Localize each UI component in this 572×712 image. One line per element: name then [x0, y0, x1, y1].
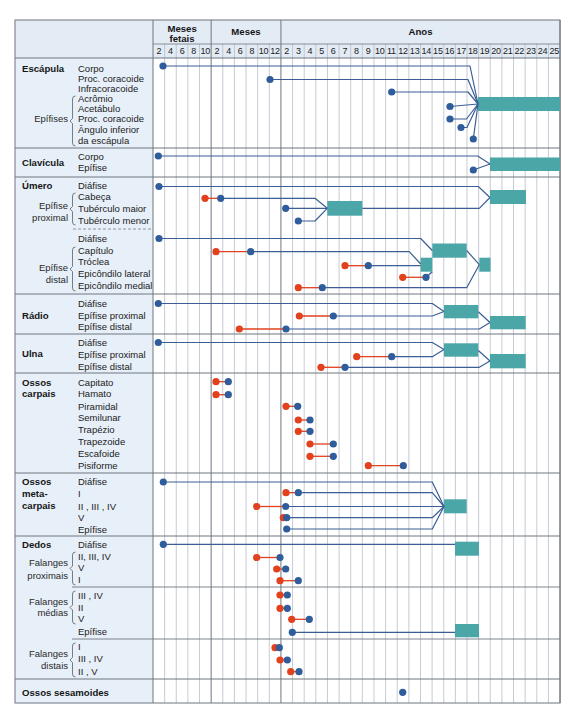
axis-tick-label: 2: [281, 47, 293, 56]
end-marker-dot: [159, 62, 166, 69]
end-marker-dot: [289, 629, 296, 636]
start-marker-dot: [317, 364, 324, 371]
row-label: Epífise: [78, 163, 107, 173]
axis-tick-label: 18: [467, 47, 479, 56]
end-marker-dot: [155, 235, 162, 242]
axis-tick-label: 2: [211, 47, 223, 56]
axis-tick-label: 6: [234, 47, 246, 56]
end-marker-dot: [470, 166, 477, 173]
axis-tick-label: 21: [502, 47, 514, 56]
end-marker-dot: [155, 183, 162, 190]
start-marker-dot: [276, 577, 283, 584]
end-marker-dot: [319, 284, 326, 291]
section-title: Dedos: [22, 540, 51, 550]
end-marker-dot: [282, 205, 289, 212]
section-title: Clavícula: [22, 158, 64, 168]
start-marker-dot: [212, 248, 219, 255]
group-label: Epífises: [34, 114, 68, 124]
row-label: Capitato: [78, 378, 113, 388]
row-label: Diáfise: [78, 338, 107, 348]
end-marker-dot: [284, 605, 291, 612]
section-title: Escápula: [22, 64, 64, 74]
axis-tick-label: 3: [293, 47, 305, 56]
end-marker-dot: [399, 689, 406, 696]
end-marker-dot: [306, 416, 313, 423]
row-label: da escápula: [78, 136, 129, 146]
row-label: Tróclea: [78, 257, 109, 267]
section-title: meta-: [22, 489, 48, 499]
connector-line: [478, 351, 490, 362]
row-label: Epífise proximal: [78, 311, 146, 321]
row-label: Cabeça: [78, 192, 111, 202]
fusion-bar: [455, 542, 479, 556]
fusion-bar: [444, 343, 478, 356]
start-marker-dot: [282, 403, 289, 410]
end-marker-dot: [446, 115, 453, 122]
start-marker-dot: [287, 668, 294, 675]
axis-tick-label: 24: [537, 47, 549, 56]
row-label: Trapézio: [78, 425, 115, 435]
row-label: V: [78, 614, 84, 624]
fusion-bar: [490, 316, 526, 329]
fusion-bar: [432, 244, 466, 258]
end-marker-dot: [294, 403, 301, 410]
axis-tick-label: 20: [490, 47, 502, 56]
row-label: Ângulo inferior: [78, 125, 139, 135]
axis-tick-label: 15: [432, 47, 444, 56]
group-label: médias: [37, 608, 68, 618]
progress-line: [392, 92, 478, 104]
end-marker-dot: [155, 300, 162, 307]
row-label: III , IV: [78, 654, 103, 664]
fusion-bar: [455, 624, 479, 637]
group-label: Falanges: [29, 597, 68, 607]
end-marker-dot: [225, 378, 232, 385]
end-marker-dot: [217, 195, 224, 202]
start-marker-dot: [288, 616, 295, 623]
progress-line: [450, 104, 478, 107]
row-label: Epífise: [78, 627, 107, 637]
end-marker-dot: [341, 364, 348, 371]
row-label: Epífise distal: [78, 322, 132, 332]
start-marker-dot: [295, 428, 302, 435]
end-marker-dot: [160, 541, 167, 548]
section-title: Ulna: [22, 349, 43, 359]
end-marker-dot: [284, 591, 291, 598]
row-label: Epicôndilo medial: [78, 281, 152, 291]
row-label: Diáfise: [78, 299, 107, 309]
start-marker-dot: [273, 565, 280, 572]
fusion-bar: [444, 499, 467, 513]
row-label: Corpo: [78, 152, 104, 162]
end-marker-dot: [283, 514, 290, 521]
row-label: Diáfise: [78, 181, 107, 191]
progress-line: [163, 66, 478, 104]
row-label: Pisiforme: [78, 461, 118, 471]
end-marker-dot: [225, 391, 232, 398]
row-label: I: [78, 642, 81, 652]
start-marker-dot: [295, 416, 302, 423]
end-marker-dot: [388, 88, 395, 95]
fusion-bar: [421, 258, 433, 272]
fusion-bar: [490, 190, 526, 204]
axis-tick-label: 12: [269, 47, 281, 56]
section-title: Rádio: [22, 311, 49, 321]
progress-line: [158, 156, 490, 164]
connector-line: [478, 312, 490, 323]
start-marker-dot: [276, 656, 283, 663]
axis-tick-label: 12: [397, 47, 409, 56]
start-marker-dot: [353, 353, 360, 360]
end-marker-dot: [365, 262, 372, 269]
fusion-bar: [478, 97, 560, 111]
end-marker-dot: [306, 428, 313, 435]
row-label: Epicôndilo lateral: [78, 269, 150, 279]
header-group-label: Anos: [281, 27, 560, 37]
axis-tick-label: 23: [525, 47, 537, 56]
axis-tick-label: 17: [455, 47, 467, 56]
row-label: Escafoide: [78, 449, 120, 459]
ossification-timeline-chart: MesesfetaisMesesAnos24681024681012234567…: [0, 0, 572, 712]
row-label: Epífise proximal: [78, 350, 146, 360]
section-title: Ossos sesamoides: [22, 688, 109, 698]
progress-line: [158, 304, 444, 312]
start-marker-dot: [276, 591, 283, 598]
group-label: Epífise: [39, 263, 68, 273]
fusion-bar: [444, 305, 478, 318]
